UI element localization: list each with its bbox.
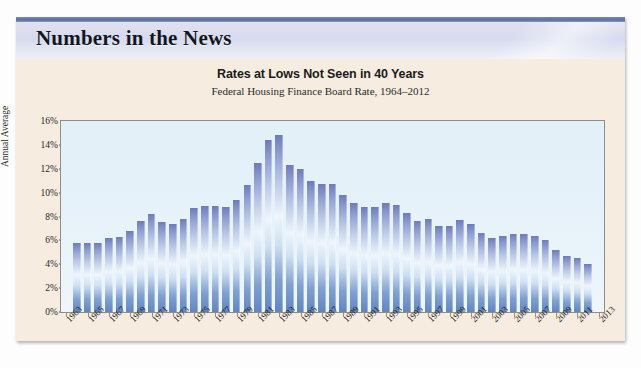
bar bbox=[456, 220, 464, 312]
bar bbox=[339, 195, 347, 312]
bar bbox=[222, 207, 230, 312]
bar bbox=[574, 258, 582, 312]
bar bbox=[180, 219, 188, 312]
chart-area: Annual Average 16%14%12%10%8%6%4%2%0% 19… bbox=[16, 17, 625, 341]
bar bbox=[169, 224, 177, 312]
y-tick-label: 0% bbox=[16, 307, 58, 317]
page-root: Numbers in the News Rates at Lows Not Se… bbox=[0, 0, 641, 368]
bar bbox=[126, 231, 134, 312]
bar bbox=[552, 250, 560, 312]
bar bbox=[116, 237, 124, 312]
bar bbox=[94, 243, 102, 312]
bar bbox=[520, 234, 528, 312]
bar bbox=[371, 207, 379, 312]
y-tick-label: 2% bbox=[16, 283, 58, 293]
bar bbox=[382, 203, 390, 312]
bar bbox=[84, 243, 92, 312]
bar bbox=[190, 208, 198, 312]
bar bbox=[297, 169, 305, 312]
bar bbox=[361, 207, 369, 312]
y-tick-label: 10% bbox=[16, 188, 58, 198]
bar bbox=[158, 222, 166, 312]
bar bbox=[275, 135, 283, 312]
bar bbox=[531, 236, 539, 312]
bar-series bbox=[61, 121, 604, 312]
y-tick-label: 16% bbox=[16, 116, 58, 126]
bar bbox=[467, 224, 475, 312]
bar bbox=[137, 221, 145, 312]
y-tick-label: 12% bbox=[16, 164, 58, 174]
bar bbox=[435, 226, 443, 312]
bar bbox=[499, 236, 507, 312]
bar bbox=[318, 184, 326, 312]
bar bbox=[542, 240, 550, 312]
y-tick-label: 8% bbox=[16, 212, 58, 222]
bar bbox=[254, 163, 262, 312]
bar bbox=[425, 219, 433, 312]
y-tick-label: 4% bbox=[16, 259, 58, 269]
bar bbox=[201, 206, 209, 312]
y-tick-label: 6% bbox=[16, 235, 58, 245]
bar bbox=[403, 213, 411, 312]
bar bbox=[105, 238, 113, 312]
y-tick-label: 14% bbox=[16, 140, 58, 150]
bar bbox=[244, 185, 252, 312]
bar bbox=[478, 233, 486, 312]
bar bbox=[446, 226, 454, 312]
bar bbox=[265, 140, 273, 312]
bar bbox=[488, 238, 496, 312]
bar bbox=[286, 165, 294, 312]
bar bbox=[350, 203, 358, 312]
bar bbox=[307, 181, 315, 312]
news-card: Numbers in the News Rates at Lows Not Se… bbox=[16, 17, 625, 341]
x-axis-labels: 1963196519671969197119731975197719791981… bbox=[61, 317, 604, 361]
bar bbox=[414, 221, 422, 312]
bar bbox=[510, 234, 518, 312]
bar bbox=[329, 184, 337, 312]
y-axis-label: Annual Average bbox=[0, 106, 10, 167]
bar bbox=[148, 214, 156, 312]
bar bbox=[393, 205, 401, 312]
bar bbox=[233, 200, 241, 312]
y-axis: 16%14%12%10%8%6%4%2%0% bbox=[16, 120, 58, 313]
bar bbox=[73, 243, 81, 312]
bar bbox=[212, 206, 220, 312]
